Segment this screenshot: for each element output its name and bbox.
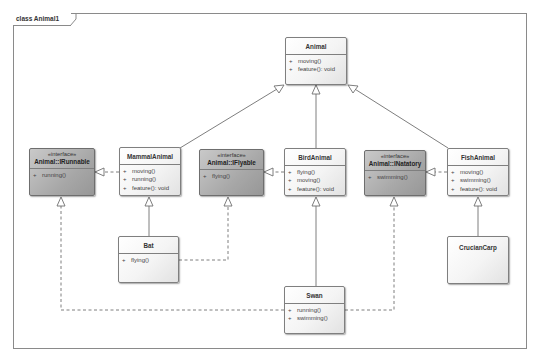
class-name: BirdAnimal [285,154,345,162]
operation[interactable]: +swimming() [451,176,508,184]
interface-inatatory[interactable]: «interface» Animal::INatatory +swimming(… [364,150,426,196]
operation[interactable]: +feature(): void [123,184,180,192]
operation[interactable]: +moving() [451,168,508,176]
operation[interactable]: +running() [123,175,180,183]
operations-list: +moving() +running() +feature(): void [120,165,180,192]
operation[interactable]: +feature(): void [288,185,345,193]
class-name: Animal [286,43,346,51]
interface-iflyable[interactable]: «interface» Animal::IFlyable +flying() [199,149,264,196]
stereotype-label: «interface» [200,152,263,159]
interface-name: Animal::INatatory [365,160,425,168]
interface-name: Animal::IRunnable [30,158,94,166]
class-name: FishAnimal [448,154,508,162]
class-animal[interactable]: Animal +moving() +feature(): void [285,37,347,85]
realization-arrowhead-icon [390,197,398,206]
operations-list: +swimming() [365,171,425,181]
operation[interactable]: +swimming() [288,314,344,322]
operation[interactable]: +flying() [288,168,345,176]
class-mammal-animal[interactable]: MammalAnimal +moving() +running() +featu… [119,147,181,196]
class-crucian-carp[interactable]: CrucianCarp [447,236,509,284]
operations-list: +flying() [119,254,178,264]
generalization-arrowhead-icon [312,85,320,94]
operations-list: +flying() [200,170,263,180]
operation[interactable]: +moving() [289,57,346,65]
operation[interactable]: +feature(): void [451,185,508,193]
generalization-arrowhead-icon [145,197,153,206]
operation[interactable]: +moving() [288,176,345,184]
class-diagram-canvas: class Animal1 [0,0,538,357]
interface-irunnable[interactable]: «interface» Animal::IRunnable +running() [29,148,95,196]
realization-arrowhead-icon [426,168,435,176]
edge-fish-animal [350,86,448,148]
realization-arrowhead-icon [264,168,273,176]
edge-swan-inatatory [345,205,394,310]
generalization-arrowhead-icon [474,197,482,206]
operation[interactable]: +running() [288,306,344,314]
operation[interactable]: +running() [33,171,94,179]
class-bird-animal[interactable]: BirdAnimal +flying() +moving() +feature(… [284,148,346,196]
class-name: Swan [285,292,344,300]
operation[interactable]: +flying() [122,256,178,264]
operation[interactable]: +feature(): void [289,65,346,73]
operation[interactable]: +moving() [123,167,180,175]
operations-list: +running() [30,169,94,179]
generalization-arrowhead-icon [312,197,320,206]
class-name: CrucianCarp [448,237,508,251]
stereotype-label: «interface» [30,151,94,158]
operations-list: +running() +swimming() [285,304,344,323]
operations-list: +moving() +feature(): void [286,55,346,74]
stereotype-label: «interface» [365,153,425,160]
operations-list: +flying() +moving() +feature(): void [285,166,345,193]
edge-bat-iflyable [179,205,228,260]
class-name: MammalAnimal [120,153,180,161]
class-bat[interactable]: Bat +flying() [118,236,179,283]
realization-arrowhead-icon [95,168,104,176]
generalization-arrowhead-icon [274,85,284,93]
interface-name: Animal::IFlyable [200,159,263,167]
operations-list: +moving() +swimming() +feature(): void [448,166,508,193]
realization-arrowhead-icon [224,197,232,206]
operation[interactable]: +flying() [203,172,263,180]
class-name: Bat [119,242,178,250]
class-swan[interactable]: Swan +running() +swimming() [284,286,345,334]
edge-mammal-animal [180,86,282,148]
operation[interactable]: +swimming() [368,173,425,181]
realization-arrowhead-icon [57,197,65,206]
generalization-arrowhead-icon [348,85,358,93]
frame-label-corner [70,13,76,26]
class-fish-animal[interactable]: FishAnimal +moving() +swimming() +featur… [447,148,509,196]
